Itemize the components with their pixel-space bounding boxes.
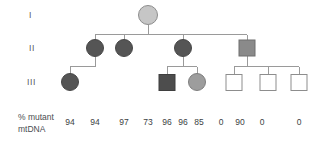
individual-iii-5 [260,75,276,91]
mutant-value: 94 [65,117,74,127]
mutant-value: 96 [178,117,187,127]
mutant-value: 90 [235,117,244,127]
individual-symbols [62,6,308,91]
mutant-value: 96 [162,117,171,127]
individual-ii-1 [87,40,104,57]
individual-ii-4 [239,40,255,56]
legend-percent-mutant: % mutant [18,112,54,122]
individual-iii-4 [226,75,242,91]
generation-label-i: I [29,10,32,20]
mutant-value: 73 [143,117,152,127]
individual-iii-1 [62,74,79,91]
mutant-value: 94 [90,117,99,127]
mutant-value: 85 [194,117,203,127]
individual-ii-2 [116,40,133,57]
mutant-value: 0 [219,117,224,127]
pedigree-figure: I II III % mutant mtDNA 94 94 97 73 96 9… [0,0,322,145]
individual-i-1 [139,6,158,25]
legend-mtdna: mtDNA [18,124,45,134]
generation-label-iii: III [27,77,36,87]
individual-ii-3 [175,40,192,57]
mutant-value: 0 [297,117,302,127]
individual-iii-3 [189,74,206,91]
mutant-value: 0 [260,117,265,127]
individual-iii-6 [291,75,307,91]
generation-label-ii: II [29,43,35,53]
pedigree-diagram [0,0,322,145]
mutant-value: 97 [119,117,128,127]
individual-iii-2 [159,75,175,91]
